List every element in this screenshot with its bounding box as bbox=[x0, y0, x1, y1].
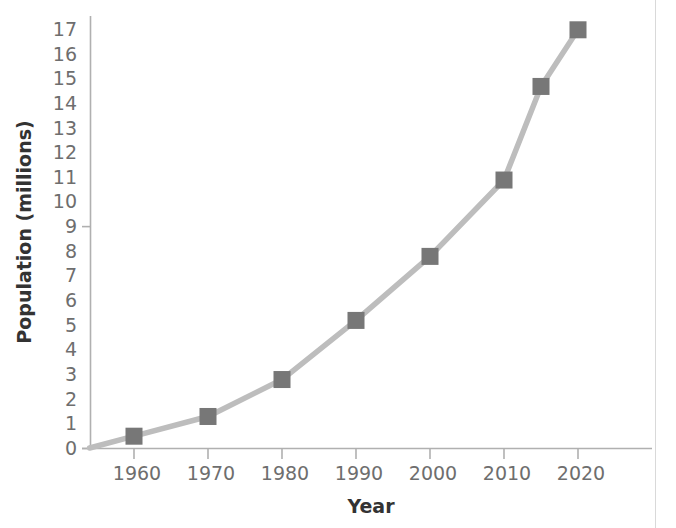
data-point-marker bbox=[126, 428, 143, 445]
x-tick-label-1960: 1960 bbox=[113, 462, 161, 484]
x-axis-title: Year bbox=[346, 495, 395, 517]
chart-canvas: 17 16 15 14 13 12 11 10 9 8 7 6 5 4 3 2 … bbox=[0, 0, 676, 528]
data-point-marker bbox=[533, 78, 550, 95]
x-axis-tick-labels: 1960 1970 1980 1990 2000 2010 2020 bbox=[113, 462, 605, 484]
y-tick-label-12: 12 bbox=[53, 141, 77, 163]
data-point-marker bbox=[274, 371, 291, 388]
y-tick-label-7: 7 bbox=[65, 264, 77, 286]
y-tick-label-17: 17 bbox=[53, 18, 77, 40]
data-series-population bbox=[90, 21, 587, 448]
data-point-marker bbox=[348, 312, 365, 329]
y-tick-label-3: 3 bbox=[65, 363, 77, 385]
axis-lines bbox=[82, 16, 652, 449]
x-tick-label-1980: 1980 bbox=[261, 462, 309, 484]
x-tick-label-2020: 2020 bbox=[557, 462, 605, 484]
x-tick-label-1990: 1990 bbox=[335, 462, 383, 484]
data-point-marker bbox=[496, 172, 513, 189]
y-tick-label-8: 8 bbox=[65, 240, 77, 262]
y-tick-label-16: 16 bbox=[53, 43, 77, 65]
series-markers bbox=[126, 21, 587, 444]
data-point-marker bbox=[570, 21, 587, 38]
y-axis-title: Population (millions) bbox=[13, 120, 35, 343]
y-tick-label-15: 15 bbox=[53, 67, 77, 89]
y-tick-label-10: 10 bbox=[53, 190, 77, 212]
x-tick-label-1970: 1970 bbox=[187, 462, 235, 484]
page-right-margin bbox=[656, 0, 676, 528]
y-tick-label-6: 6 bbox=[65, 289, 77, 311]
y-tick-label-9: 9 bbox=[65, 215, 77, 237]
y-tick-label-1: 1 bbox=[65, 412, 77, 434]
y-tick-label-5: 5 bbox=[65, 314, 77, 336]
data-point-marker bbox=[422, 248, 439, 265]
y-axis-ticks bbox=[82, 227, 91, 449]
y-tick-label-13: 13 bbox=[53, 117, 77, 139]
y-tick-label-14: 14 bbox=[53, 92, 77, 114]
x-tick-label-2000: 2000 bbox=[409, 462, 457, 484]
y-tick-label-2: 2 bbox=[65, 388, 77, 410]
y-tick-label-11: 11 bbox=[53, 166, 77, 188]
y-tick-label-0: 0 bbox=[65, 437, 77, 459]
line-chart-figure: 17 16 15 14 13 12 11 10 9 8 7 6 5 4 3 2 … bbox=[0, 0, 676, 528]
x-axis-ticks bbox=[134, 449, 578, 460]
data-point-marker bbox=[200, 408, 217, 425]
y-axis-tick-labels: 17 16 15 14 13 12 11 10 9 8 7 6 5 4 3 2 … bbox=[53, 18, 77, 459]
series-line bbox=[90, 30, 578, 448]
y-tick-label-4: 4 bbox=[65, 338, 77, 360]
x-tick-label-2010: 2010 bbox=[483, 462, 531, 484]
